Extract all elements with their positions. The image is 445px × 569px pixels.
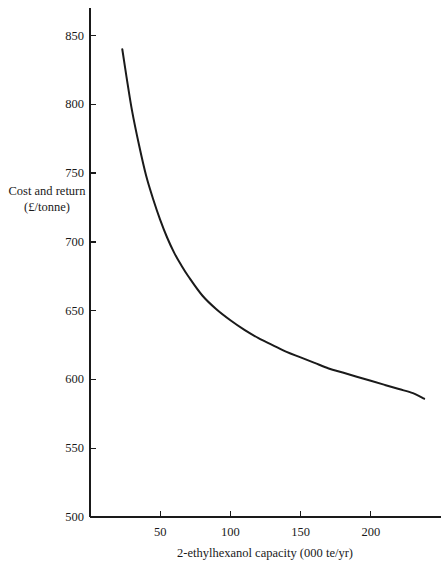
y-axis-title: Cost and return (£/tonne) xyxy=(8,184,85,215)
data-series-group xyxy=(122,49,424,398)
axes-group xyxy=(90,8,441,517)
y-axis-tick-label: 550 xyxy=(40,442,84,455)
x-axis-title: 2-ethylhexanol capacity (000 te/yr) xyxy=(177,546,353,562)
chart-figure: 500550600650700750800850 50100150200 Cos… xyxy=(0,0,445,569)
x-axis-tick-marks xyxy=(160,511,371,517)
y-axis-tick-label: 500 xyxy=(40,511,84,524)
y-axis-tick-label: 800 xyxy=(40,98,84,111)
y-axis-title-line-1: Cost and return xyxy=(8,184,85,200)
x-axis-tick-label: 200 xyxy=(361,526,380,539)
chart-canvas xyxy=(0,0,445,569)
y-axis-tick-label: 650 xyxy=(40,304,84,317)
y-axis-tick-marks xyxy=(90,36,96,517)
data-series-line xyxy=(122,49,424,398)
y-axis-title-line-2: (£/tonne) xyxy=(8,200,85,216)
y-axis-tick-label: 750 xyxy=(40,167,84,180)
y-axis-tick-label: 850 xyxy=(40,29,84,42)
x-axis-tick-label: 150 xyxy=(291,526,310,539)
x-axis-tick-label: 50 xyxy=(154,526,167,539)
y-axis-tick-label: 600 xyxy=(40,373,84,386)
y-axis-tick-label: 700 xyxy=(40,236,84,249)
x-axis-tick-label: 100 xyxy=(221,526,240,539)
